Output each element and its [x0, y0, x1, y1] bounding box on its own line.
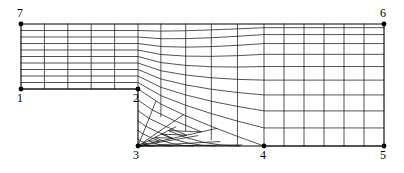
grid-line-horizontal	[21, 76, 384, 111]
mesh-figure: 1234567	[0, 0, 404, 173]
grid-line-horizontal	[21, 44, 384, 48]
mesh-canvas	[0, 0, 404, 173]
vertex-label-3: 3	[133, 149, 139, 161]
vertex-label-4: 4	[260, 149, 266, 161]
grid-line-horizontal	[21, 63, 384, 80]
grid-line-horizontal	[21, 28, 384, 31]
grid-line-step-height	[21, 89, 384, 146]
grid-line-horizontal	[21, 35, 384, 39]
vertex-label-1: 1	[17, 92, 23, 104]
vertex-label-2: 2	[133, 92, 139, 104]
vertex-marker-7	[19, 22, 24, 27]
grid-line-fan-ray	[138, 101, 156, 146]
vertex-label-6: 6	[380, 7, 386, 19]
vertex-label-7: 7	[17, 7, 23, 19]
vertex-label-5: 5	[380, 149, 386, 161]
vertex-markers-group	[19, 22, 387, 149]
grid-line-fan-ray	[138, 115, 183, 146]
grid-lines-group	[21, 24, 384, 146]
vertex-marker-6	[382, 22, 387, 27]
grid-line-horizontal	[21, 50, 384, 56]
grid-line-horizontal	[21, 57, 384, 68]
